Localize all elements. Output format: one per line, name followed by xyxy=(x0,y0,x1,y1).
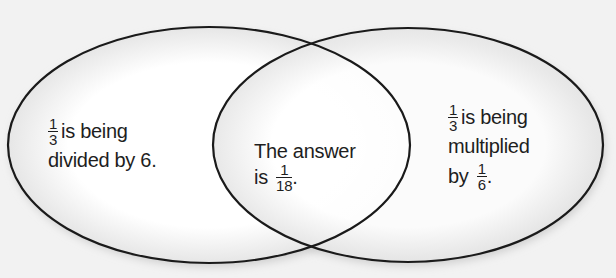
fraction-one-eighteenth: 1 18 xyxy=(276,163,292,192)
fraction-denominator: 6 xyxy=(477,177,487,191)
right-set-line1: 1 3 is being xyxy=(448,104,529,133)
right-set-text-line1: is being xyxy=(461,106,528,128)
fraction-numerator: 1 xyxy=(276,163,292,178)
right-set-suffix: . xyxy=(487,165,492,187)
left-set-label: 1 3 is being divided by 6. xyxy=(48,118,156,173)
intersection-prefix: is xyxy=(254,166,268,188)
right-set-label: 1 3 is being multiplied by 1 6 . xyxy=(448,104,529,192)
fraction-one-third: 1 3 xyxy=(48,117,58,146)
left-set-line1: 1 3 is being xyxy=(48,118,156,147)
fraction-numerator: 1 xyxy=(477,162,487,177)
right-set-text-line2: multiplied xyxy=(448,133,529,159)
fraction-denominator: 3 xyxy=(48,132,58,146)
left-set-text-line1: is being xyxy=(61,120,128,142)
fraction-one-sixth: 1 6 xyxy=(477,162,487,191)
fraction-numerator: 1 xyxy=(448,103,458,118)
fraction-one-third: 1 3 xyxy=(448,103,458,132)
right-set-line3: by 1 6 . xyxy=(448,163,529,192)
intersection-label: The answer is 1 18 . xyxy=(254,138,356,193)
fraction-denominator: 3 xyxy=(448,118,458,132)
venn-diagram: 1 3 is being divided by 6. The answer is… xyxy=(0,0,616,278)
fraction-numerator: 1 xyxy=(48,117,58,132)
left-set-text-line2: divided by 6. xyxy=(48,147,156,173)
intersection-text-line1: The answer xyxy=(254,138,356,164)
right-set-prefix: by xyxy=(448,165,469,187)
fraction-denominator: 18 xyxy=(276,178,292,192)
intersection-line2: is 1 18 . xyxy=(254,164,356,193)
intersection-suffix: . xyxy=(292,166,297,188)
